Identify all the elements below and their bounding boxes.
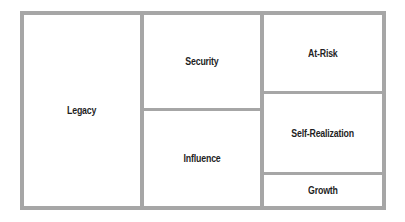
cell-label: Self-Realization	[292, 128, 355, 139]
cell-self-realization: Self-Realization	[264, 94, 382, 172]
cell-label: Security	[185, 56, 218, 67]
cell-at-risk: At-Risk	[264, 15, 382, 91]
cell-influence: Influence	[144, 111, 260, 206]
cell-label: At-Risk	[308, 48, 338, 59]
cell-growth: Growth	[264, 175, 382, 206]
cell-label: Influence	[183, 153, 220, 164]
cell-security: Security	[144, 15, 260, 108]
cell-legacy: Legacy	[24, 15, 140, 206]
cell-label: Growth	[308, 185, 338, 196]
cell-label: Legacy	[67, 105, 96, 116]
treemap-frame: Legacy Security Influence At-Risk Self-R…	[20, 11, 386, 210]
